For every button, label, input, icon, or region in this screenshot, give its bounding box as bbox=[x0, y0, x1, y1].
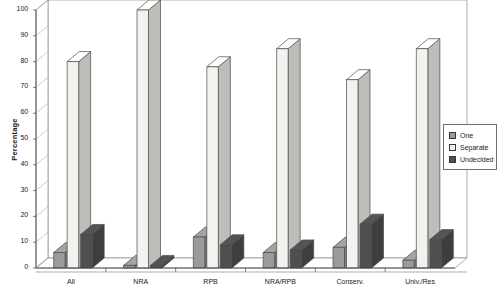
chart-legend: OneSeparateUndecided bbox=[443, 124, 497, 170]
legend-item-label: Undecided bbox=[460, 156, 493, 163]
legend-item-one[interactable]: One bbox=[449, 129, 490, 141]
bar-separate-NRA bbox=[137, 0, 161, 268]
y-axis-tick-label: 30 bbox=[6, 186, 28, 193]
y-axis-tick-label: 70 bbox=[6, 82, 28, 89]
bar-undecided-Conserv. bbox=[360, 214, 384, 268]
y-axis-tick-label: 50 bbox=[6, 134, 28, 141]
x-axis-tick-label: Univ./Res bbox=[385, 278, 455, 285]
legend-item-label: Separate bbox=[460, 144, 488, 151]
legend-swatch-icon bbox=[449, 156, 456, 163]
legend-swatch-icon bbox=[449, 144, 456, 151]
y-axis-tick-label: 90 bbox=[6, 31, 28, 38]
legend-item-separate[interactable]: Separate bbox=[449, 141, 490, 153]
x-axis-tick-label: NRA/RPB bbox=[246, 278, 316, 285]
y-axis-tick-label: 100 bbox=[6, 5, 28, 12]
y-axis-tick-label: 80 bbox=[6, 57, 28, 64]
y-axis-tick-label: 20 bbox=[6, 211, 28, 218]
legend-item-undecided[interactable]: Undecided bbox=[449, 153, 490, 165]
legend-swatch-icon bbox=[449, 132, 456, 139]
plot-area bbox=[0, 0, 502, 300]
x-axis-tick-label: RPB bbox=[176, 278, 246, 285]
legend-item-label: One bbox=[460, 132, 473, 139]
bar-separate-NRA/RPB bbox=[277, 39, 301, 268]
bar-separate-Univ./Res bbox=[416, 39, 440, 268]
x-axis-tick-label: NRA bbox=[106, 278, 176, 285]
bar-chart: Percentage 0102030405060708090100 AllNRA… bbox=[0, 0, 502, 300]
y-axis-tick-label: 0 bbox=[6, 263, 28, 270]
x-axis-tick-label: All bbox=[36, 278, 106, 285]
x-axis-tick-label: Conserv. bbox=[315, 278, 385, 285]
y-axis-tick-label: 40 bbox=[6, 160, 28, 167]
bar-separate-RPB bbox=[207, 57, 231, 268]
y-axis-tick-label: 10 bbox=[6, 237, 28, 244]
y-axis-tick-label: 60 bbox=[6, 108, 28, 115]
